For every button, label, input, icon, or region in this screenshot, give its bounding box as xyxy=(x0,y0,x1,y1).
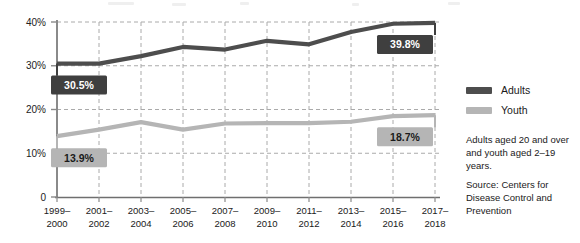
x-tick-label: 2015–2016 xyxy=(380,205,407,229)
x-tick-label: 2013–2014 xyxy=(338,205,365,229)
y-tick-label: 40% xyxy=(26,17,46,28)
y-tick-label: 20% xyxy=(26,104,46,115)
note-definition: Adults aged 20 and over and youth aged 2… xyxy=(466,134,580,172)
plot-area: 010%20%30%40% 30.5%39.8%13.9%18.7% 1999–… xyxy=(0,0,450,243)
legend-swatch-adults xyxy=(466,87,492,94)
y-tick-label: 30% xyxy=(26,60,46,71)
legend-label-adults: Adults xyxy=(501,85,530,96)
legend-item-adults[interactable]: Adults xyxy=(466,82,530,99)
legend-item-youth[interactable]: Youth xyxy=(466,102,530,119)
chart-legend: Adults Youth xyxy=(466,82,530,122)
y-tick-label: 0 xyxy=(40,192,46,203)
x-tick-label: 2001–2002 xyxy=(86,205,113,229)
x-tick-label: 2009–2010 xyxy=(254,205,281,229)
legend-label-youth: Youth xyxy=(501,105,527,116)
callout-label: 13.9% xyxy=(64,152,94,164)
callout-label: 30.5% xyxy=(64,79,94,91)
y-tick-label: 10% xyxy=(26,148,46,159)
legend-swatch-youth xyxy=(466,107,492,114)
x-tick-labels: 1999–20002001–20022003–20042005–20062007… xyxy=(44,205,449,229)
x-tick-label: 2007–2008 xyxy=(212,205,239,229)
chart-screenshot: 010%20%30%40% 30.5%39.8%13.9%18.7% 1999–… xyxy=(0,0,580,243)
x-tick-label: 2011–2012 xyxy=(296,205,322,229)
callout-label: 18.7% xyxy=(390,131,420,143)
side-panel: Adults Youth Adults aged 20 and over and… xyxy=(466,0,580,243)
chart-notes: Adults aged 20 and over and youth aged 2… xyxy=(466,134,580,218)
x-tick-label: 2005–2006 xyxy=(170,205,197,229)
x-tick-label: 1999–2000 xyxy=(44,205,71,229)
x-tick-label: 2003–2004 xyxy=(128,205,155,229)
x-tick-label: 2017–2018 xyxy=(422,205,449,229)
callout-label: 39.8% xyxy=(390,38,420,50)
y-tick-labels: 010%20%30%40% xyxy=(26,17,46,203)
line-chart-svg: 010%20%30%40% 30.5%39.8%13.9%18.7% 1999–… xyxy=(0,0,450,243)
note-source: Source: Centers for Disease Control and … xyxy=(466,179,580,217)
